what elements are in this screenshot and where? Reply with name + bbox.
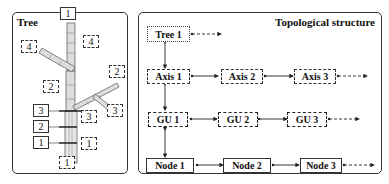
axis-label: 4 [83,35,99,48]
gu-box: GU 3 [287,112,327,127]
axis-box: Axis 3 [294,69,336,84]
gu-label: 3 [107,104,123,117]
axis-box: Axis 1 [147,69,190,84]
node-label: 3 [33,104,49,117]
gu-label: 2 [109,65,125,78]
topology-panel: Topological structure Tree 1 Axis 1 Axis… [138,12,382,174]
node-box: Node 2 [223,158,271,173]
gu-label: 3 [81,110,97,123]
tree-drawing [13,13,129,175]
tree-panel: Tree 1 3 2 1 4 4 2 2 [12,12,128,174]
node-label: 1 [33,136,49,149]
node-box: Node 1 [146,158,194,173]
gu-box: GU 2 [218,112,258,127]
node-label: 2 [33,120,49,133]
gu-label: 1 [59,156,75,169]
axis-box: Axis 2 [221,69,263,84]
gu-label: 2 [43,80,59,93]
tree-node-box: Tree 1 [147,26,190,42]
node-box: Node 3 [300,158,342,173]
gu-box: GU 1 [148,112,188,127]
stem-label: 1 [60,7,76,20]
gu-label: 1 [81,137,97,150]
axis-label: 4 [21,40,37,53]
